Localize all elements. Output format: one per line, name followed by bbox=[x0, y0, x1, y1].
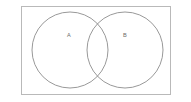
set-b-label: B bbox=[123, 32, 127, 38]
set-a-label: A bbox=[67, 32, 71, 38]
set-a-circle bbox=[32, 12, 108, 88]
set-b-circle bbox=[87, 12, 163, 88]
venn-diagram-canvas: A B bbox=[0, 0, 191, 102]
venn-diagram: A B bbox=[0, 0, 191, 102]
